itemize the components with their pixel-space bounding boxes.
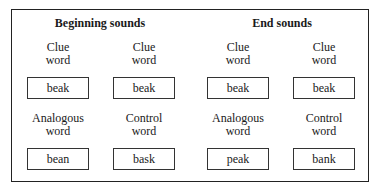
clue-word-box-1: beak (27, 77, 89, 99)
clue-word-label-3: Clue word (198, 41, 278, 67)
control-word-label-2: Control word (284, 112, 364, 138)
clue-word-label-2: Clue word (104, 41, 184, 67)
clue-word-label-1: Clue word (18, 41, 98, 67)
label-line: word (104, 54, 184, 67)
clue-word-box-2: beak (113, 77, 175, 99)
label-line: word (104, 125, 184, 138)
control-word-label-1: Control word (104, 112, 184, 138)
clue-word-box-3: beak (207, 77, 269, 99)
analogous-word-label-2: Analogous word (198, 112, 278, 138)
control-word-box-2: bank (293, 148, 355, 170)
analogous-word-box-2: peak (207, 148, 269, 170)
heading-beginning-sounds: Beginning sounds (15, 16, 185, 31)
label-line: word (284, 125, 364, 138)
label-line: word (198, 125, 278, 138)
analogous-word-box-1: bean (27, 148, 89, 170)
label-line: word (198, 54, 278, 67)
control-word-box-1: bask (113, 148, 175, 170)
label-line: word (18, 125, 98, 138)
clue-word-box-4: beak (293, 77, 355, 99)
analogous-word-label-1: Analogous word (18, 112, 98, 138)
label-line: word (18, 54, 98, 67)
heading-end-sounds: End sounds (197, 16, 367, 31)
label-line: word (284, 54, 364, 67)
clue-word-label-4: Clue word (284, 41, 364, 67)
